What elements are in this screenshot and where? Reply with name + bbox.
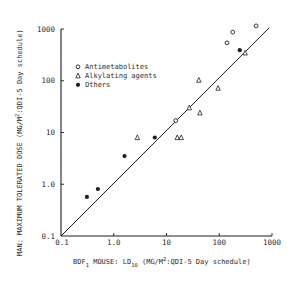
x-tick-label: 0.1 <box>55 238 69 247</box>
x-tick-label: 1000 <box>263 238 282 247</box>
legend-label: Others <box>85 81 110 89</box>
scatter-chart: 0.11.01010010000.11.0101001000 Antimetab… <box>0 0 295 281</box>
regression-line-path <box>61 28 269 236</box>
data-point <box>225 41 229 45</box>
y-tick-label: 1000 <box>37 25 56 34</box>
regression-line <box>61 28 269 236</box>
y-tick-label: 100 <box>41 76 55 85</box>
data-point <box>254 24 258 28</box>
triangle-icon <box>76 73 80 78</box>
filled-circle-icon <box>76 83 80 87</box>
data-point <box>231 30 235 34</box>
data-point <box>96 187 100 191</box>
legend-item: Antimetabolites <box>76 63 148 71</box>
data-point <box>122 154 126 158</box>
x-tick-label: 1.0 <box>107 238 121 247</box>
data-point <box>175 135 179 140</box>
legend-label: Alkylating agents <box>85 72 157 80</box>
legend-item: Others <box>76 81 110 89</box>
y-axis-label: MAN: MAXIMUM TOLERATED DOSE (MG/M2:QDI-5… <box>14 29 24 256</box>
data-point <box>216 86 220 91</box>
data-point <box>153 135 157 139</box>
data-point <box>197 77 201 82</box>
data-point <box>179 135 183 140</box>
axis-ticks: 0.11.01010010000.11.0101001000 <box>37 25 282 248</box>
y-tick-label: 10 <box>46 128 56 137</box>
legend-label: Antimetabolites <box>85 63 148 71</box>
data-point <box>85 195 89 199</box>
series-alkylating-agents <box>135 50 247 139</box>
y-tick-label: 0.1 <box>41 232 55 241</box>
x-tick-label: 100 <box>212 238 226 247</box>
y-tick-label: 1.0 <box>41 180 55 189</box>
x-axis-label: BDF1 MOUSE: LD10 (MG/M2:QDI-5 Day schedu… <box>73 256 251 268</box>
x-tick-label: 10 <box>162 238 172 247</box>
data-point <box>174 119 178 123</box>
data-point <box>198 110 202 115</box>
legend-item: Alkylating agents <box>76 72 157 80</box>
data-point <box>135 135 139 140</box>
data-points <box>85 24 258 199</box>
data-point <box>243 50 247 55</box>
data-point <box>238 48 242 52</box>
circle-icon <box>76 65 80 69</box>
series-antimetabolites <box>174 24 258 123</box>
legend: AntimetabolitesAlkylating agentsOthers <box>76 63 157 89</box>
